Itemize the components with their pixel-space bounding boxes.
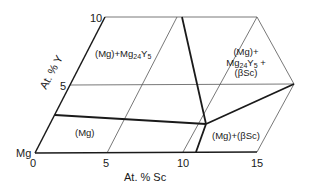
x-axis-title: At. % Sc (124, 171, 167, 183)
right-upper-edge (257, 17, 294, 84)
sc-axis (35, 152, 257, 153)
mg-bsc-solvus-line (196, 124, 206, 152)
x-tick-0: 0 (30, 157, 36, 169)
x-tick-5: 5 (103, 157, 109, 169)
y-tick-5: 5 (60, 80, 66, 92)
tie-line-bsc (206, 84, 294, 124)
y5-grid-line (70, 84, 294, 85)
phase-diagram: 10 5 Mg 0 5 10 15 At. % Sc At. % Y (Mg) … (0, 0, 309, 189)
x-tick-10: 10 (177, 157, 189, 169)
y-tick-10: 10 (90, 12, 102, 24)
tie-line-mg24y5 (182, 17, 206, 124)
region-three-phase-line3: (βSc) (235, 67, 258, 78)
region-mg-label: (Mg) (75, 127, 95, 138)
origin-label: Mg (16, 147, 31, 159)
region-mg-bsc-label: (Mg)+(βSc) (212, 130, 260, 141)
x-tick-15: 15 (251, 157, 263, 169)
region-mg-mg24y5-label: (Mg)+Mg24Y5 (95, 48, 151, 60)
region-three-phase-line1: (Mg)+ (233, 46, 259, 57)
right-lower-edge (257, 84, 294, 152)
mg-solvus-line (55, 115, 206, 124)
